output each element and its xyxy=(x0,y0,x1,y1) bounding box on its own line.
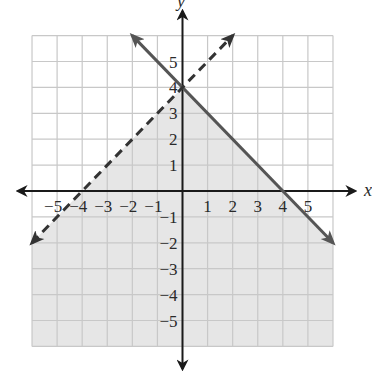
x-tick-label: −4 xyxy=(69,197,88,216)
y-axis-label: y xyxy=(175,0,185,11)
y-tick-label: 3 xyxy=(169,104,178,123)
x-tick-label: −5 xyxy=(44,197,62,216)
coordinate-plane: −5−4−3−2−112345−5−4−3−2−112345 x y xyxy=(0,0,372,372)
y-tick-label: 1 xyxy=(169,156,178,175)
x-tick-label: 2 xyxy=(228,197,237,216)
y-tick-label: −5 xyxy=(159,312,177,331)
x-tick-label: −3 xyxy=(94,197,112,216)
x-tick-label: −2 xyxy=(119,197,137,216)
y-tick-label: −1 xyxy=(159,208,177,227)
y-tick-label: 5 xyxy=(169,53,178,72)
y-tick-label: −2 xyxy=(159,234,177,253)
x-tick-label: 4 xyxy=(279,197,288,216)
y-tick-label: 2 xyxy=(169,130,178,149)
y-tick-label: −4 xyxy=(159,286,178,305)
x-tick-label: 1 xyxy=(203,197,212,216)
x-axis-label: x xyxy=(363,180,372,200)
x-tick-label: 3 xyxy=(253,197,262,216)
y-tick-label: −3 xyxy=(159,260,177,279)
